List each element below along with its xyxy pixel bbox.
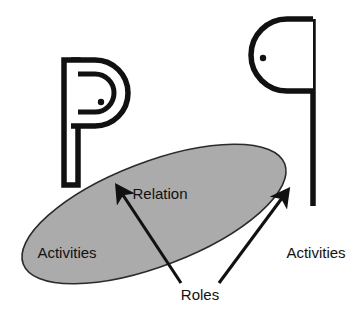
diagram-svg: Relation Activities Activities Roles xyxy=(0,0,358,318)
roles-label: Roles xyxy=(181,286,219,303)
actor-right-eye-dot xyxy=(260,55,266,61)
activities-right-label: Activities xyxy=(286,244,345,261)
actor-left xyxy=(64,60,128,185)
diagram-canvas: Relation Activities Activities Roles xyxy=(0,0,358,318)
actor-left-eye-dot xyxy=(98,99,104,105)
activities-left-label: Activities xyxy=(37,244,96,261)
actor-left-head-inner xyxy=(78,74,114,112)
relation-ellipse xyxy=(5,115,304,312)
actor-right-head xyxy=(251,19,313,91)
relation-label: Relation xyxy=(132,185,187,202)
relation-ellipse-shape xyxy=(5,115,304,312)
